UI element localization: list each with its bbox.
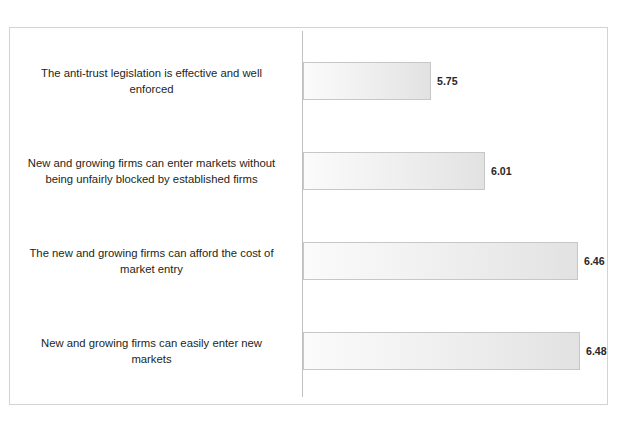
bar-value-label: 6.01 (491, 165, 512, 177)
bar-value-label: 5.75 (437, 75, 458, 87)
clipped-title-artifact (140, 0, 480, 3)
category-label: The new and growing firms can afford the… (10, 246, 293, 277)
bar-value-label: 6.48 (586, 345, 607, 357)
bar-value-label: 6.46 (584, 255, 605, 267)
category-label-line: market entry (120, 262, 183, 274)
category-label-line: being unfairly blocked by established fi… (45, 172, 257, 184)
bar (303, 332, 580, 370)
category-label: The anti-trust legislation is effective … (10, 66, 293, 97)
bar-row: The new and growing firms can afford the… (10, 216, 607, 306)
bar-row: New and growing firms can enter markets … (10, 126, 607, 216)
chart-frame: The anti-trust legislation is effective … (9, 27, 608, 405)
category-label-line: enforced (130, 82, 174, 94)
bar-row: The anti-trust legislation is effective … (10, 36, 607, 126)
bar (303, 242, 578, 280)
category-label: New and growing firms can enter markets … (10, 156, 293, 187)
category-label-line: The new and growing firms can afford the… (29, 247, 273, 259)
plot-area: The anti-trust legislation is effective … (10, 28, 607, 404)
bar (303, 62, 431, 100)
category-label-line: markets (131, 352, 171, 364)
category-label: New and growing firms can easily enter n… (10, 336, 293, 367)
bar-row: New and growing firms can easily enter n… (10, 306, 607, 396)
category-label-line: New and growing firms can easily enter n… (41, 337, 262, 349)
category-label-line: New and growing firms can enter markets … (28, 157, 275, 169)
bar (303, 152, 485, 190)
category-label-line: The anti-trust legislation is effective … (41, 67, 262, 79)
